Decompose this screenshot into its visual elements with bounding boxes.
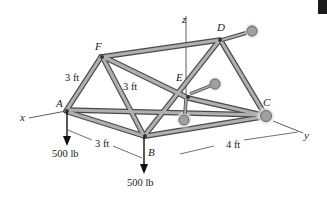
x-axis xyxy=(29,111,66,118)
joint-label-B: B xyxy=(148,146,155,158)
axis-label-z: z xyxy=(181,13,187,25)
support-ball-E-side xyxy=(210,79,220,89)
y-axis xyxy=(273,121,303,133)
axis-label-x: x xyxy=(19,111,25,123)
dimension-FB: 3 ft xyxy=(123,81,137,92)
joint-label-D: D xyxy=(216,21,225,33)
axis-label-y: y xyxy=(303,129,309,141)
joint-label-E: E xyxy=(175,71,183,83)
joint-D xyxy=(218,38,222,42)
joint-label-C: C xyxy=(263,96,271,108)
members xyxy=(66,40,264,136)
joint-label-F: F xyxy=(94,40,102,52)
support-ball-E-bottom xyxy=(179,115,189,125)
joint-label-A: A xyxy=(55,97,63,109)
dimension-AF: 3 ft xyxy=(65,72,79,83)
load-label-B: 500 lb xyxy=(127,177,154,188)
dimension-AB: 3 ft xyxy=(95,138,109,149)
truss-diagram: F D E A B C x y z 3 ft 3 ft 3 ft 4 ft 50… xyxy=(0,0,327,198)
joint-F xyxy=(100,55,104,59)
dimension-BC: 4 ft xyxy=(226,139,240,150)
joint-E xyxy=(186,95,190,99)
support-ball-C xyxy=(261,111,272,122)
load-label-A: 500 lb xyxy=(52,148,79,159)
support-ball-D xyxy=(247,26,257,36)
